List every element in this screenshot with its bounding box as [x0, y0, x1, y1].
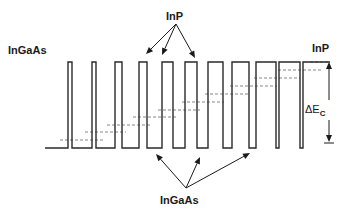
right-material-label: InP: [312, 42, 329, 54]
delta-ec-subscript: C: [320, 109, 326, 118]
bottom-well-label: InGaAs: [160, 194, 199, 206]
conduction-band-edge: [45, 62, 330, 148]
delta-ec-label: ΔEC: [305, 103, 326, 118]
ingaas-pointer-arrow-shaft: [186, 156, 244, 188]
left-material-label: InGaAs: [8, 44, 47, 56]
ingaas-pointer-arrow-shaft: [186, 163, 197, 188]
inp-barrier-arrows: [146, 24, 195, 58]
ingaas-well-arrows: [156, 153, 250, 188]
delta-ec-double-arrow: [324, 62, 334, 143]
inp-pointer-arrow-shaft: [165, 24, 176, 49]
delta-ec-up-arrow-head-icon: [326, 62, 332, 69]
top-barrier-label: InP: [166, 10, 183, 22]
subband-energy-levels: [60, 62, 330, 140]
band-diagram: InGaAs InP InP InGaAs ΔEC: [0, 0, 354, 216]
inp-pointer-arrow-shaft: [151, 24, 176, 49]
delta-ec-down-arrow-head-icon: [326, 135, 332, 142]
inp-pointer-arrow-head-icon: [189, 50, 195, 58]
inp-pointer-arrow-shaft: [176, 24, 192, 52]
delta-ec-symbol: ΔE: [305, 103, 320, 115]
ingaas-pointer-arrow-shaft: [161, 159, 186, 188]
